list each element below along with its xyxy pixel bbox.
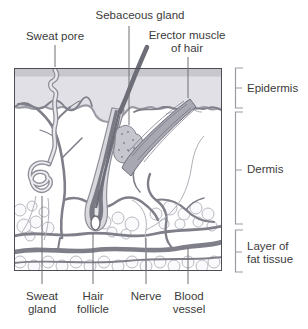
hair-follicle-label-line2: follicle	[77, 303, 109, 316]
skin-anatomy-figure: Sweat pore Sebaceous gland Erector muscl…	[0, 0, 308, 329]
nerve-label: Nerve	[131, 290, 162, 303]
blood-vessel-label-line2: vessel	[173, 303, 206, 316]
sebaceous-gland-label: Sebaceous gland	[96, 9, 185, 22]
hair-follicle-label: Hair follicle	[77, 290, 109, 316]
epidermis-label: Epidermis	[247, 82, 298, 95]
fat-layer-label-line1: Layer of	[247, 240, 293, 253]
layer-brackets	[236, 68, 244, 272]
fat-layer-label: Layer of fat tissue	[247, 240, 293, 266]
sweat-gland-label-line2: gland	[26, 303, 58, 316]
bracket-dermis	[236, 112, 244, 224]
hair-papilla	[91, 216, 100, 230]
sweat-gland-label: Sweat gland	[26, 290, 58, 316]
fat-layer-label-line2: fat tissue	[247, 253, 293, 266]
erector-muscle-label: Erector muscle of hair	[149, 29, 226, 55]
bracket-fat	[236, 230, 244, 272]
bracket-epidermis	[236, 68, 244, 108]
sweat-gland-label-line1: Sweat	[26, 290, 58, 303]
sweat-pore-label: Sweat pore	[26, 30, 84, 43]
blood-vessel-label: Blood vessel	[173, 290, 206, 316]
hair-follicle-label-line1: Hair	[77, 290, 109, 303]
erector-muscle-label-line1: Erector muscle	[149, 29, 226, 42]
blood-vessel-label-line1: Blood	[173, 290, 206, 303]
dermis-label: Dermis	[247, 163, 283, 176]
erector-muscle-label-line2: of hair	[149, 42, 226, 55]
